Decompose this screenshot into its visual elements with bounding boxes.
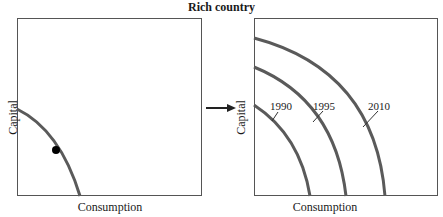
curve-label-1995: 1995 <box>313 100 335 112</box>
current-point-marker <box>52 146 60 154</box>
curve-label-1990: 1990 <box>270 100 292 112</box>
curve-label-2010: 2010 <box>368 100 390 112</box>
curve-1990 <box>254 105 310 196</box>
left-ppf-curve <box>17 109 80 196</box>
curve-1995 <box>254 67 346 196</box>
